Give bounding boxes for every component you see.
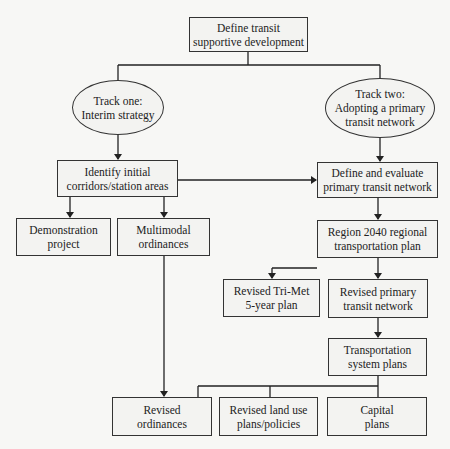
node-label-line: Revised primary: [340, 285, 416, 299]
node-track-two: Track two:Adopting a primarytransit netw…: [325, 78, 435, 138]
node-label-line: ordinances: [137, 417, 187, 431]
node-label-line: plans: [360, 417, 393, 431]
node-label-line: Define transit: [193, 21, 304, 35]
node-label-line: corridors/station areas: [67, 179, 169, 193]
node-label-line: Demonstration: [29, 223, 97, 237]
node-demonstration-project: Demonstrationproject: [16, 218, 111, 256]
node-label-line: transportation plan: [328, 239, 428, 253]
node-revised-land-use: Revised land useplans/policies: [219, 397, 318, 436]
node-label-line: Identify initial: [67, 165, 169, 179]
node-label-line: supportive development: [193, 35, 304, 49]
node-label-line: project: [29, 237, 97, 251]
node-transportation-system-plans: Transportationsystem plans: [328, 338, 427, 376]
node-identify-initial-corridors: Identify initialcorridors/station areas: [57, 160, 178, 197]
node-label-line: Region 2040 regional: [328, 225, 428, 239]
node-revised-trimet-plan: Revised Tri-Met5-year plan: [223, 279, 320, 317]
node-label-line: Revised: [137, 403, 187, 417]
node-label-line: Track one:: [81, 94, 154, 108]
node-label-line: Track two:: [335, 87, 426, 101]
node-label-line: 5-year plan: [234, 298, 310, 312]
node-define-transit-supportive-development: Define transitsupportive development: [189, 17, 308, 52]
node-define-evaluate-network: Define and evaluateprimary transit netwo…: [317, 162, 438, 198]
node-capital-plans: Capitalplans: [327, 397, 427, 436]
node-label-line: ordinances: [136, 237, 190, 251]
node-multimodal-ordinances: Multimodalordinances: [117, 218, 210, 256]
node-label-line: Revised Tri-Met: [234, 284, 310, 298]
node-revised-ordinances: Revisedordinances: [112, 397, 212, 436]
node-label-line: plans/policies: [230, 417, 308, 431]
node-label-line: Multimodal: [136, 223, 190, 237]
node-label-line: Interim strategy: [81, 108, 154, 122]
node-region-2040-plan: Region 2040 regionaltransportation plan: [317, 220, 438, 258]
node-track-one: Track one:Interim strategy: [72, 80, 164, 135]
node-label-line: transit network: [335, 115, 426, 129]
node-label-line: Adopting a primary: [335, 101, 426, 115]
node-label-line: system plans: [344, 357, 411, 371]
node-label-line: Capital: [360, 403, 393, 417]
node-label-line: Transportation: [344, 343, 411, 357]
node-label-line: transit network: [340, 299, 416, 313]
node-label-line: Define and evaluate: [323, 166, 432, 180]
node-label-line: primary transit network: [323, 180, 432, 194]
node-revised-primary-network: Revised primarytransit network: [328, 279, 428, 318]
node-label-line: Revised land use: [230, 403, 308, 417]
